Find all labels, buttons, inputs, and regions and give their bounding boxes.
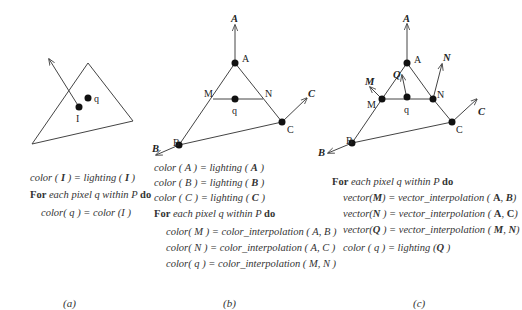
svg-text:q: q [404,104,409,115]
code-b-for: For each pixel q within P do [154,208,275,219]
svg-text:q: q [232,105,237,116]
caption-a: (a) [63,297,76,309]
svg-text:B: B [151,143,159,154]
svg-text:C: C [478,106,486,117]
svg-text:N: N [265,88,272,99]
vertex-A [404,60,411,67]
code-b-body-N: color( N ) = color_interpolation ( A, C … [166,242,335,253]
panel-b-diagram: A M N q C B A C B [151,13,316,155]
code-a-lighting: color ( I ) = lighting ( I ) [30,172,135,183]
code-b-init-A: color ( A ) = lighting ( A ) [154,162,264,173]
code-b-init-C: color ( C ) = lighting ( C ) [154,192,265,203]
normal-vector-C [452,99,477,122]
svg-text:B: B [173,137,180,148]
svg-text:I: I [76,113,79,124]
svg-text:C: C [456,124,463,135]
svg-text:A: A [230,13,238,24]
point-M [379,96,386,103]
svg-text:N: N [437,89,444,100]
svg-text:N: N [442,52,451,63]
code-c-final: color ( q ) = lighting (Q ) [343,242,450,253]
panel-c-diagram: A M N q C B A N C M Q B [317,13,486,158]
svg-text:Q: Q [393,69,401,80]
svg-text:A: A [242,53,250,64]
code-c-body-Q: vector(Q ) = vector_interpolation ( M, N… [343,224,520,235]
point-q [85,95,92,102]
code-a-for: For each pixel q within P do [30,189,151,200]
caption-c: (c) [413,297,425,309]
svg-text:C: C [287,124,294,135]
svg-text:A: A [414,54,422,65]
code-b-init-B: color ( B ) = lighting ( B ) [154,177,264,188]
triangle-b [179,63,282,145]
code-b-body-q: color( q ) = color_interpolation ( M, N … [166,258,336,269]
svg-text:M: M [367,99,376,110]
panel-a-diagram: q I [32,59,133,144]
point-I [76,104,83,111]
code-c-body-N: vector(N ) = vector_interpolation ( A, C… [343,208,518,219]
code-c-body-M: vector(M) = vector_interpolation ( A, B) [343,192,516,203]
svg-text:B: B [346,135,353,146]
point-N [430,96,437,103]
svg-text:M: M [204,88,213,99]
vertex-C [449,119,456,126]
svg-text:M: M [364,76,375,87]
svg-text:C: C [308,88,316,99]
caption-b: (b) [223,297,236,309]
code-c-for: For each pixel q within P do [332,176,453,187]
point-q [232,96,239,103]
svg-text:q: q [94,93,99,104]
point-q [404,94,411,101]
code-b-body-M: color( M ) = color_interpolation ( A, B … [166,226,337,237]
figure: q I A M N q C B A C B [0,0,522,310]
triangle-a [32,63,133,144]
vertex-A [232,60,239,67]
svg-text:B: B [317,147,325,158]
code-a-body: color( q ) = color (I ) [41,207,131,218]
svg-text:A: A [402,13,410,24]
vertex-C [279,119,286,126]
normal-vector-C [282,98,307,122]
